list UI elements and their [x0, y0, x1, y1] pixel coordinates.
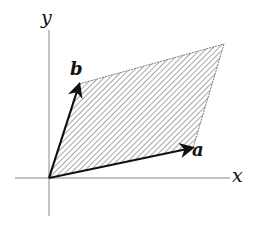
y-axis-label: y: [41, 8, 52, 27]
diagram-canvas: [0, 0, 265, 238]
x-axis-label: x: [232, 166, 243, 185]
vector-a-label: a: [192, 141, 204, 159]
vector-b-label: b: [70, 60, 83, 78]
